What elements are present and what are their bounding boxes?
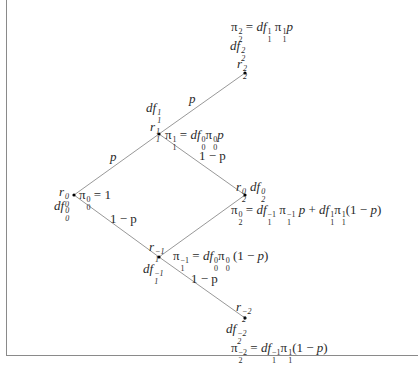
discount-df1-m1: df−11 [143, 262, 164, 286]
sub: 1 [330, 219, 334, 227]
r-symbol: r [237, 56, 242, 71]
open-paren: (1 − [346, 202, 371, 217]
pi-symbol: π [173, 248, 180, 263]
r-symbol: r [236, 179, 241, 194]
df-symbol: df [250, 179, 260, 194]
pi-symbol: π [79, 187, 86, 202]
sub: 2 [239, 357, 248, 365]
rate-r2-m2: r−22 [236, 300, 251, 324]
edge-n1up-up [159, 73, 245, 134]
close-paren: ) [377, 202, 381, 217]
df-symbol: df [190, 127, 200, 142]
rate-r2-2: r22 [237, 57, 247, 81]
rate-r1-1: r11 [150, 120, 160, 144]
equals: = [177, 127, 191, 142]
sub: 0 [202, 144, 206, 152]
df-symbol: df [54, 198, 64, 213]
prob: 1 − p [110, 211, 137, 226]
sub: 2 [239, 219, 243, 227]
sub: 1 [173, 144, 177, 152]
sub: 0 [213, 144, 217, 152]
pi-symbol: π [279, 202, 286, 217]
p-symbol: p [286, 19, 293, 34]
sub: 1 [268, 36, 272, 44]
r-symbol: r [149, 239, 154, 254]
pi-symbol: π [281, 340, 288, 355]
equals: = [247, 340, 261, 355]
sub: 0 [214, 265, 218, 273]
r-symbol: r [59, 184, 64, 199]
df-symbol: df [319, 202, 329, 217]
df-symbol: df [226, 321, 236, 336]
sub: 1 [154, 278, 163, 286]
edge-label-n0-up: p [110, 150, 117, 163]
pi-symbol: π [334, 202, 341, 217]
sub: 2 [243, 73, 247, 81]
discount-df0-0: df00 [54, 199, 69, 223]
sub: 1 [181, 265, 190, 273]
equals: = [189, 248, 203, 263]
prob: 1 − p [191, 271, 218, 286]
equals: = [243, 19, 257, 34]
df-symbol: df [256, 19, 266, 34]
r-symbol: r [150, 119, 155, 134]
pi-symbol: π [206, 127, 213, 142]
sub: 1 [282, 36, 286, 44]
open-paren: (1 − [292, 340, 317, 355]
df-symbol: df [230, 38, 240, 53]
df-symbol: df [261, 340, 271, 355]
pi-symbol: π [165, 127, 172, 142]
p-symbol: p [217, 127, 224, 142]
sub: 0 [226, 265, 230, 273]
price-pi2-0: π02 = df−11 π−11 p + df11π11(1 − p) [231, 203, 381, 227]
pi-symbol: π [231, 340, 238, 355]
df-symbol: df [203, 248, 213, 263]
sub: 1 [268, 219, 277, 227]
edge-label-n1up-up: p [189, 92, 196, 105]
value: 1 [104, 187, 111, 202]
price-pi1-1: π11 = df00π00p [165, 128, 224, 152]
pi-symbol: π [231, 202, 238, 217]
r-symbol: r [236, 299, 241, 314]
close-paren: ) [323, 340, 327, 355]
sub: 1 [287, 219, 296, 227]
sub: 1 [288, 357, 292, 365]
equals: = [243, 202, 257, 217]
close-paren: ) [264, 248, 268, 263]
sub: 0 [65, 215, 69, 223]
price-pi0-0: π00 = 1 [79, 188, 111, 212]
pi-symbol: π [218, 248, 225, 263]
discount-df2-0: df02 [250, 180, 265, 204]
df-symbol: df [146, 100, 156, 115]
df-symbol: df [256, 202, 266, 217]
pi-symbol: π [275, 19, 282, 34]
sub: 1 [156, 136, 160, 144]
sub: 1 [272, 357, 281, 365]
rate-r2-0: r02 [236, 180, 246, 204]
open-paren: (1 − [233, 248, 258, 263]
df-symbol: df [143, 261, 153, 276]
sub: 0 [87, 204, 91, 212]
price-pi2-m2: π−22 = df−11π11(1 − p) [231, 341, 328, 365]
edge-label-n0-down: 1 − p [110, 212, 137, 225]
pi-symbol: π [231, 19, 238, 34]
edge-n0-up [74, 134, 159, 195]
plus: + [305, 202, 319, 217]
sub: 1 [342, 219, 346, 227]
node-0-0 [72, 193, 75, 196]
price-pi1-m1: π−11 = df00π00 (1 − p) [173, 249, 268, 273]
equals: = [91, 187, 105, 202]
edge-label-n1down-down: 1 − p [191, 272, 218, 285]
